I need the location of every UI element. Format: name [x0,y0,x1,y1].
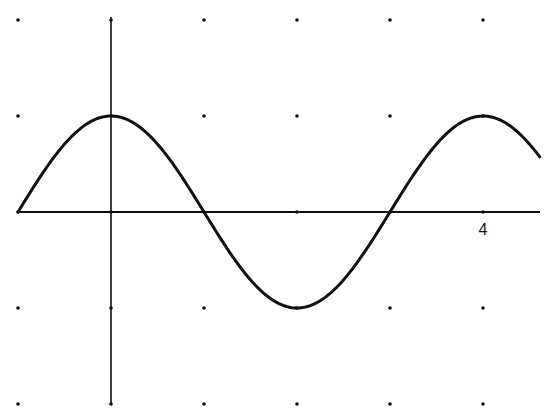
grid-dot [202,114,206,118]
grid-dot [295,18,299,22]
grid-dot [16,114,20,118]
grid-dot [388,114,392,118]
grid-dot [481,18,485,22]
grid-dot [16,306,20,310]
grid-dot [295,402,299,406]
grid-dot [481,306,485,310]
grid-dot [16,402,20,406]
grid-dot [202,306,206,310]
grid-dot [295,114,299,118]
grid-dot [202,18,206,22]
grid-dot [16,18,20,22]
x-tick-label-4: 4 [479,221,488,238]
grid-dot [388,402,392,406]
grid-dot [388,306,392,310]
grid-dot [388,18,392,22]
grid-dot [481,402,485,406]
cosine-plot: 4 [0,0,549,410]
grid-dot [202,402,206,406]
